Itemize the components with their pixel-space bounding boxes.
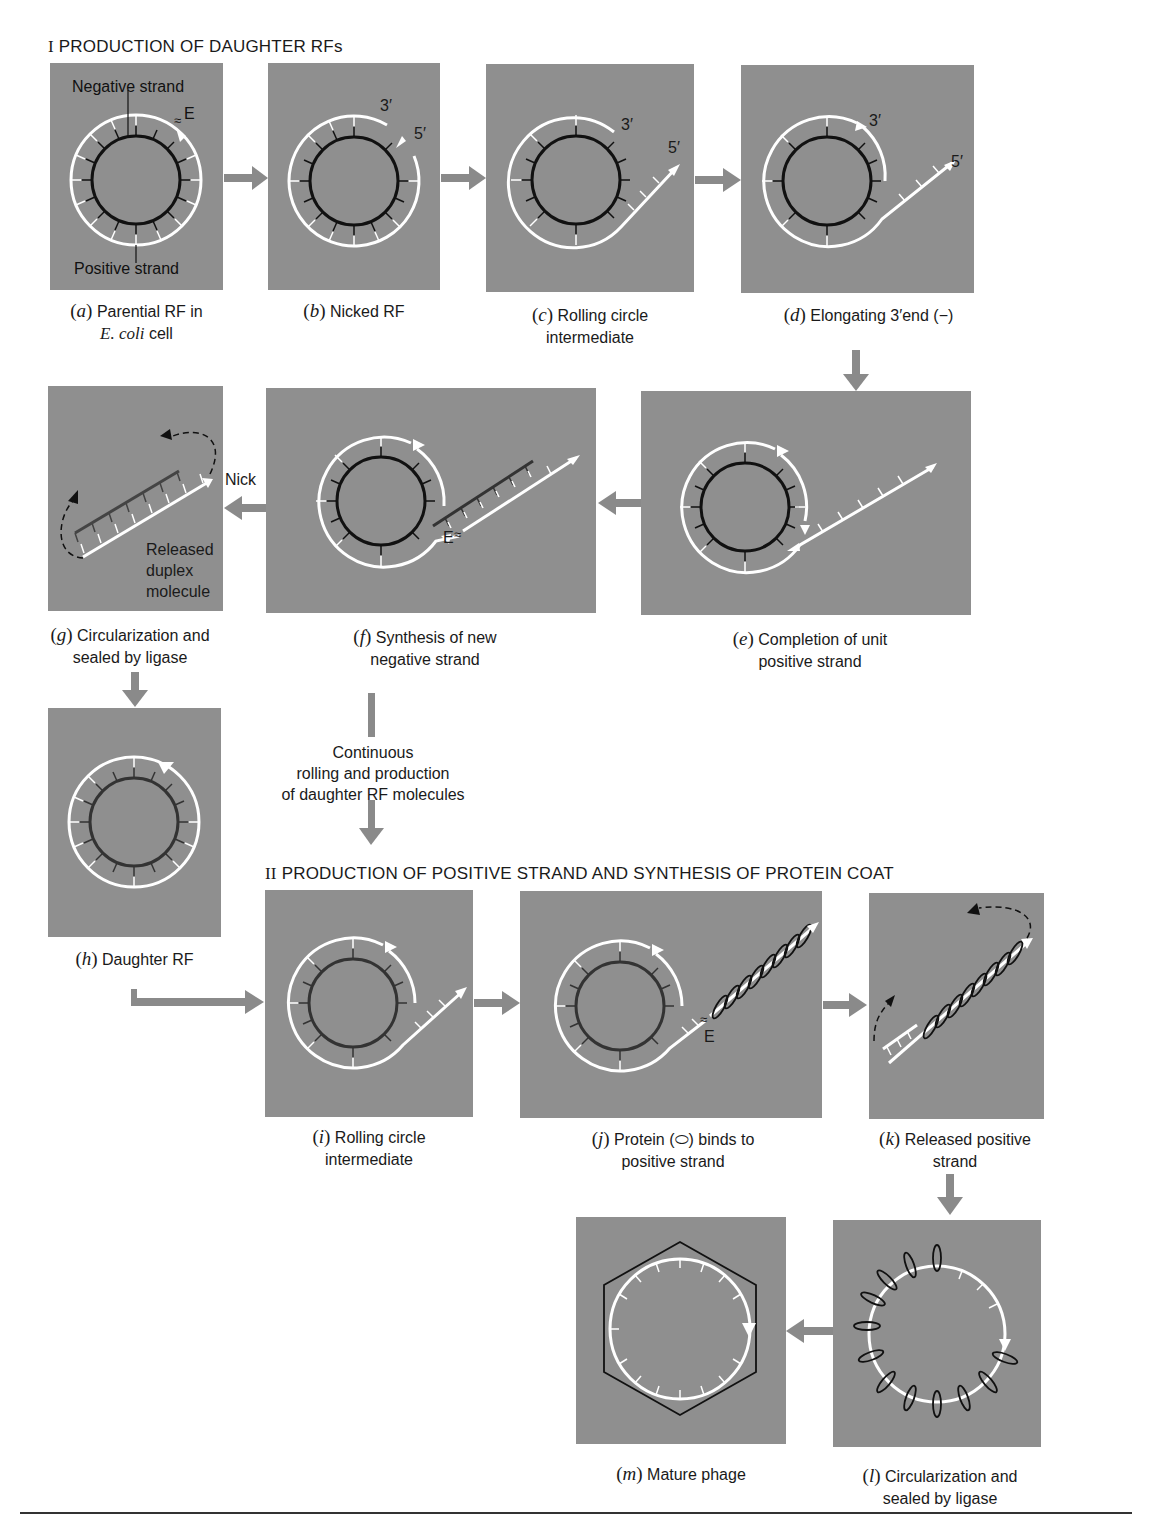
daughter-rf-diagram (48, 708, 221, 937)
bottom-rule-divider (20, 1512, 1132, 1514)
three-prime-label: 3′ (869, 110, 881, 131)
caption-d: (d) Elongating 3′end (−) (741, 304, 996, 327)
rolling-circle-diagram-2 (265, 890, 473, 1117)
continuous-rolling-note: Continuous rolling and production of dau… (263, 742, 483, 805)
caption-g: (g) Circularization and sealed by ligase (30, 624, 230, 669)
caption-i: (i) Rolling circle intermediate (265, 1126, 473, 1171)
panel-f-synthesis: ≈ E (266, 388, 596, 613)
panel-m-mature-phage (576, 1217, 786, 1444)
caption-b: (b) Nicked RF (268, 300, 440, 323)
arrow-h-to-i-icon (131, 989, 264, 1014)
caption-letter: a (77, 300, 87, 321)
section-numeral: I (48, 37, 54, 56)
caption-e: (e) Completion of unit positive strand (700, 628, 920, 673)
svg-text:≈: ≈ (700, 1012, 707, 1027)
panel-d-elongating: 3′ 5′ (741, 65, 974, 293)
panel-g-released-duplex: Released duplex molecule (48, 386, 223, 611)
panel-j-protein-binds: ≈ E (520, 891, 822, 1118)
protein-binding-diagram: ≈ (520, 891, 822, 1118)
arrow-j-to-k-icon (823, 993, 867, 1017)
arrow-b-to-c-icon (441, 166, 486, 190)
section-text: PRODUCTION OF DAUGHTER RFs (59, 37, 343, 56)
section-title-2: II PRODUCTION OF POSITIVE STRAND AND SYN… (265, 864, 894, 884)
svg-text:≈: ≈ (174, 113, 181, 128)
elongating-diagram (741, 65, 974, 293)
section-numeral: II (265, 864, 277, 883)
caption-l: (l) Circularization and sealed by ligase (825, 1465, 1055, 1510)
enzyme-label: E (184, 103, 195, 124)
enzyme-label: E (704, 1026, 715, 1047)
caption-m: (m) Mature phage (576, 1463, 786, 1486)
parental-rf-diagram: ≈ (50, 63, 223, 290)
panel-a-parental-rf: ≈ Negative strand Positive strand E (50, 63, 223, 290)
arrow-f-to-g-icon (224, 496, 266, 520)
arrow-i-to-j-icon (474, 991, 520, 1015)
negative-strand-label: Negative strand (72, 76, 184, 97)
synthesis-diagram: ≈ (266, 388, 596, 613)
five-prime-label: 5′ (951, 151, 963, 172)
section-title-1: I PRODUCTION OF DAUGHTER RFs (48, 37, 343, 57)
five-prime-label: 5′ (414, 123, 426, 144)
positive-strand-label: Positive strand (74, 258, 179, 279)
panel-c-rolling-circle: 3′ 5′ (486, 64, 694, 292)
section-text: PRODUCTION OF POSITIVE STRAND AND SYNTHE… (282, 864, 894, 883)
panel-e-completion (641, 391, 971, 615)
panel-l-circularization (833, 1220, 1041, 1447)
nicked-rf-diagram (268, 63, 440, 290)
caption-f: (f) Synthesis of new negative strand (320, 626, 530, 671)
enzyme-label: E (443, 527, 454, 548)
circularization-diagram (833, 1220, 1041, 1447)
arrow-a-to-b-icon (224, 166, 268, 190)
panel-b-nicked-rf: 3′ 5′ (268, 63, 440, 290)
caption-h: (h) Daughter RF (48, 948, 221, 971)
nick-label: Nick (225, 469, 256, 490)
arrow-e-to-f-icon (598, 491, 641, 515)
arrow-d-to-e-icon (843, 350, 869, 391)
mature-phage-diagram (576, 1217, 786, 1444)
three-prime-label: 3′ (621, 114, 633, 135)
arrow-l-to-m-icon (786, 1319, 833, 1343)
arrow-c-to-d-icon (695, 168, 741, 192)
caption-k: (k) Released positive strand (850, 1128, 1060, 1173)
panel-i-rolling-circle (265, 890, 473, 1117)
panel-k-released-positive (869, 893, 1044, 1119)
caption-j: (j) Protein (⬭) binds to positive strand (548, 1128, 798, 1173)
released-positive-diagram (869, 893, 1044, 1119)
three-prime-label: 3′ (380, 95, 392, 116)
released-duplex-label: Released duplex molecule (146, 539, 214, 602)
panel-h-daughter-rf (48, 708, 221, 937)
five-prime-label: 5′ (668, 137, 680, 158)
svg-text:≈: ≈ (454, 527, 461, 542)
arrow-k-to-l-icon (937, 1174, 963, 1215)
arrow-g-to-h-icon (122, 672, 148, 707)
caption-a: (a) Parential RF in E. coli cell (50, 300, 223, 345)
rolling-circle-diagram (486, 64, 694, 292)
completion-diagram (641, 391, 971, 615)
caption-c: (c) Rolling circle intermediate (486, 304, 694, 349)
